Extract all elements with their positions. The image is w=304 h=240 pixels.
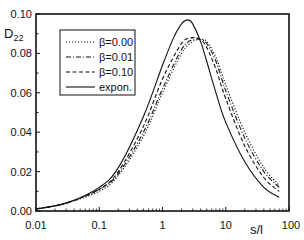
y-tick-label: 0.04 xyxy=(11,126,32,138)
legend-label: β=0.10 xyxy=(99,66,133,78)
x-axis-label: s/l xyxy=(250,222,263,237)
x-tick-label: 10 xyxy=(220,219,232,231)
x-tick-label: 100 xyxy=(282,219,300,231)
y-tick-label: 0.06 xyxy=(11,87,32,99)
x-tick-label: 0.1 xyxy=(92,219,107,231)
x-tick-label: 0.01 xyxy=(25,219,46,231)
legend-label: expon. xyxy=(99,81,132,93)
legend-label: β=0.00 xyxy=(99,36,133,48)
chart: 0.000.020.040.060.080.10 0.010.1110100 D… xyxy=(0,0,304,240)
y-tick-label: 0.02 xyxy=(11,166,32,178)
legend: β=0.00β=0.01β=0.10expon. xyxy=(60,30,135,95)
x-tick-label: 1 xyxy=(159,219,165,231)
y-axis-label: D22 xyxy=(4,26,23,43)
legend-label: β=0.01 xyxy=(99,51,133,63)
y-tick-label: 0.10 xyxy=(11,8,32,20)
y-tick-label: 0.00 xyxy=(11,205,32,217)
y-tick-label: 0.08 xyxy=(11,47,32,59)
